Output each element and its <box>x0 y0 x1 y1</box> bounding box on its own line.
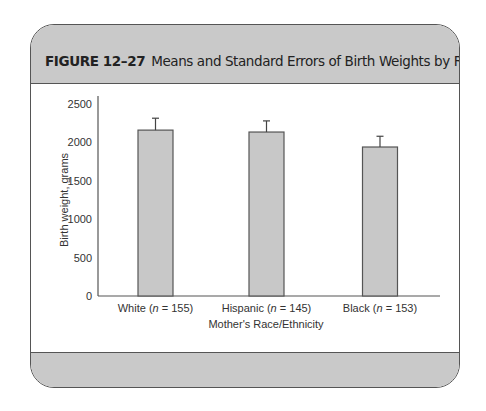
x-tick-label: Black (n = 153) <box>343 302 417 314</box>
bar <box>249 132 284 296</box>
bar <box>363 147 398 296</box>
y-tick-label: 0 <box>86 290 92 302</box>
y-tick-label: 2500 <box>68 98 92 110</box>
y-tick-label: 1500 <box>68 175 92 187</box>
bar <box>138 130 173 296</box>
bar-chart: 05001000150020002500Birth weight, gramsW… <box>0 0 486 411</box>
y-axis-label: Birth weight, grams <box>58 152 70 247</box>
y-tick-label: 2000 <box>68 136 92 148</box>
x-tick-label: White (n = 155) <box>118 302 194 314</box>
y-tick-label: 1000 <box>68 213 92 225</box>
x-axis-label: Mother's Race/Ethnicity <box>208 318 324 330</box>
x-tick-label: Hispanic (n = 145) <box>222 302 312 314</box>
y-tick-label: 500 <box>74 252 92 264</box>
